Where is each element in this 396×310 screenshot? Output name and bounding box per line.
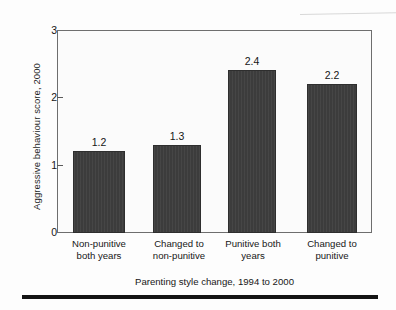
bar-value-label-4: 2.2: [307, 69, 357, 81]
bar-non-punitive-both-years: [73, 151, 125, 233]
x-category-label-2-line-2: non-punitive: [137, 250, 221, 262]
bar-value-label-1: 1.2: [73, 136, 125, 148]
x-category-label-1-line-1: Non-punitive: [57, 238, 141, 250]
x-category-label-3-line-2: years: [212, 250, 294, 262]
bottom-horizontal-rule: [22, 295, 378, 299]
x-axis-title: Parenting style change, 1994 to 2000: [57, 276, 372, 287]
x-category-label-1: Non-punitive both years: [57, 238, 141, 261]
x-category-label-4-line-2: punitive: [291, 250, 373, 262]
bar-value-label-2: 1.3: [153, 130, 201, 142]
x-category-label-4: Changed to punitive: [291, 238, 373, 261]
x-category-label-2-line-1: Changed to: [137, 238, 221, 250]
x-category-label-3: Punitive both years: [212, 238, 294, 261]
x-category-label-2: Changed to non-punitive: [137, 238, 221, 261]
x-category-label-3-line-1: Punitive both: [212, 238, 294, 250]
bar-chart-figure: Aggressive behaviour score, 2000 3 2 1 0…: [0, 0, 396, 310]
x-category-label-1-line-2: both years: [57, 250, 141, 262]
bars-layer: 1.2 1.3 2.4 2.2: [0, 0, 396, 310]
bar-changed-to-punitive: [307, 84, 357, 233]
x-category-label-4-line-1: Changed to: [291, 238, 373, 250]
bar-punitive-both-years: [228, 70, 276, 233]
bar-changed-to-non-punitive: [153, 145, 201, 233]
bar-value-label-3: 2.4: [228, 55, 276, 67]
